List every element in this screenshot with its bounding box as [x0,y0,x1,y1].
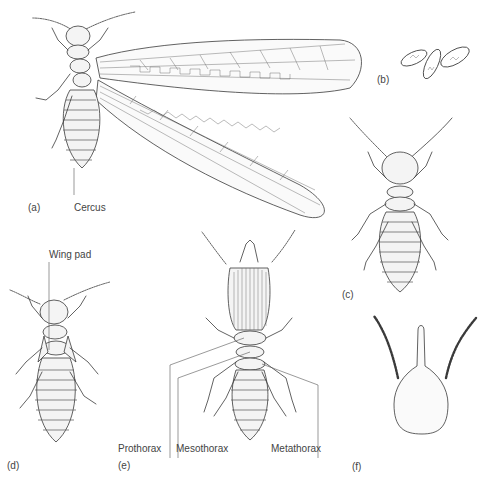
panel-label-f: (f) [352,462,361,472]
panel-label-d: (d) [7,461,19,471]
nasute-head-drawing [374,316,476,434]
metathorax-label: Metathorax [271,444,321,454]
prothorax-label: Prothorax [118,444,161,454]
panel-label-a: (a) [28,203,40,213]
termite-illustration [0,0,493,481]
soldier-termite-drawing [170,230,318,458]
worker-termite-drawing [350,118,452,292]
panel-label-b: (b) [377,75,389,85]
mesothorax-label: Mesothorax [176,444,228,454]
eggs-drawing [399,43,473,81]
nymph-termite-drawing [10,262,110,442]
alate-termite-drawing [32,12,361,218]
cercus-label: Cercus [74,203,106,213]
panel-label-c: (c) [342,290,354,300]
wing-pad-label: Wing pad [49,250,91,260]
panel-label-e: (e) [118,461,130,471]
